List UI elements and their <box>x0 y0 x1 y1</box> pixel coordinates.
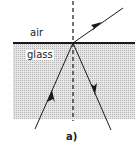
air-label: air <box>30 28 43 38</box>
caption-label: a) <box>66 132 77 142</box>
glass-label: glass <box>26 50 54 60</box>
